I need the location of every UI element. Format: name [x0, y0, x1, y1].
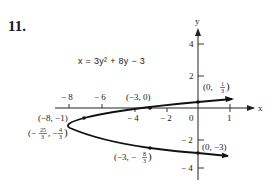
point-label-0-third: (0, 1 3 )	[203, 80, 230, 94]
svg-text:(−3, −: (−3, −	[114, 152, 136, 162]
y-tick-label: 2	[189, 71, 194, 81]
x-axis-arrow-icon	[247, 105, 255, 111]
curve-arrow-top-icon	[225, 96, 234, 102]
svg-text:3: 3	[59, 134, 62, 140]
y-tick-label: − 4	[181, 163, 193, 173]
y-axis-label: y	[195, 16, 200, 26]
y-tick-label: − 2	[181, 135, 193, 145]
svg-text:): )	[226, 80, 230, 93]
svg-text:): )	[64, 126, 68, 139]
svg-text:, −: , −	[48, 128, 58, 138]
svg-text:(0,: (0,	[203, 82, 213, 92]
point-label-m3-m8third: (−3, − 8 3 )	[114, 150, 152, 164]
x-axis-label: x	[258, 103, 263, 113]
x-tick-label: − 2	[160, 113, 172, 123]
point-label-vertex: (− 25 3 , − 4 3 )	[28, 126, 68, 140]
svg-text:3: 3	[221, 88, 224, 94]
svg-text:3: 3	[41, 134, 44, 140]
svg-text:3: 3	[143, 158, 146, 164]
svg-text:): )	[148, 150, 152, 163]
x-tick-label: 1	[227, 113, 232, 123]
y-axis-arrow-icon	[195, 28, 201, 36]
parabola-graph: x y − 8 − 6 − 4 − 2 0 1 4 2 − 2 − 4 (−8,…	[0, 0, 270, 189]
svg-text:4: 4	[59, 127, 62, 133]
svg-text:25: 25	[40, 127, 46, 133]
point-label-0-m3: (0, −3)	[202, 142, 227, 152]
point-label-m8-m1: (−8, −1)	[38, 113, 68, 123]
x-tick-label: − 8	[61, 92, 73, 102]
svg-text:1: 1	[221, 81, 224, 87]
x-tick-label: − 4	[127, 113, 139, 123]
x-tick-label: − 6	[94, 92, 106, 102]
x-tick-label: 0	[189, 113, 194, 123]
point-label-m3-0: (−3, 0)	[126, 92, 151, 102]
y-tick-label: 4	[189, 39, 194, 49]
svg-text:(−: (−	[28, 128, 36, 138]
svg-text:8: 8	[143, 151, 146, 157]
